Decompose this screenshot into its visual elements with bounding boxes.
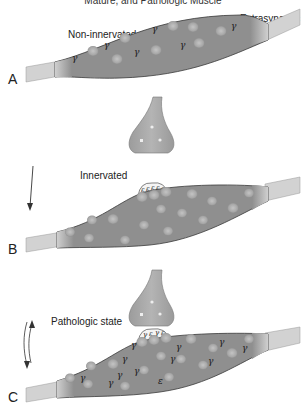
gamma-symbol: γ bbox=[231, 21, 237, 31]
gamma-symbol: γ bbox=[104, 40, 110, 50]
synaptic-nucleus bbox=[161, 187, 172, 197]
gamma-symbol: γ bbox=[72, 53, 78, 63]
nucleus bbox=[156, 205, 166, 214]
bidirectional-arrow-icon bbox=[24, 320, 35, 369]
panel-b-caption: Innervated bbox=[80, 170, 127, 181]
nucleus bbox=[156, 352, 166, 361]
gamma-symbol: γ bbox=[176, 342, 182, 352]
nucleus bbox=[198, 216, 208, 225]
tendon-right bbox=[265, 177, 300, 201]
nucleus bbox=[112, 54, 123, 64]
nucleus bbox=[65, 228, 75, 237]
gamma-symbol: γ bbox=[134, 366, 140, 376]
nucleus bbox=[208, 344, 218, 353]
nucleus bbox=[207, 197, 217, 206]
synaptic-nucleus bbox=[149, 190, 160, 200]
nucleus bbox=[151, 45, 162, 55]
nucleus bbox=[120, 33, 131, 43]
panel-letter-c: C bbox=[8, 389, 18, 405]
synaptic-nucleus bbox=[149, 335, 160, 345]
nucleus bbox=[176, 355, 186, 364]
nucleus bbox=[108, 359, 119, 369]
gamma-symbol: γ bbox=[80, 373, 86, 383]
nucleus bbox=[84, 234, 94, 243]
nucleus bbox=[244, 189, 254, 198]
gamma-symbol: γ bbox=[131, 340, 137, 350]
gamma-symbol: γ bbox=[117, 370, 123, 380]
nucleus bbox=[194, 38, 205, 48]
gamma-symbol: γ bbox=[180, 40, 186, 50]
panel-letter-a: A bbox=[8, 71, 18, 87]
nucleus bbox=[120, 382, 130, 391]
epsilon-symbol: ε bbox=[158, 376, 163, 386]
gamma-symbol: γ bbox=[219, 337, 225, 347]
synaptic-nucleus bbox=[137, 192, 148, 202]
gamma-symbol: γ bbox=[170, 354, 176, 364]
nucleus bbox=[163, 227, 173, 236]
figure-title: Mature, and Pathologic Muscle bbox=[84, 0, 222, 6]
gamma-symbol: γ bbox=[208, 356, 214, 366]
nucleus bbox=[177, 209, 187, 218]
nucleus bbox=[187, 189, 198, 199]
nucleus bbox=[227, 348, 238, 358]
nucleus bbox=[188, 22, 199, 32]
nucleus bbox=[198, 361, 208, 370]
synaptic-nucleus bbox=[137, 337, 148, 347]
synaptic-nucleus bbox=[161, 333, 172, 343]
nucleus bbox=[87, 216, 97, 225]
nerve-terminal bbox=[129, 270, 174, 326]
panel-c: Pathologic state γ ε γ ε bbox=[8, 270, 300, 405]
nucleus bbox=[120, 236, 130, 245]
panel-b: Innervated ε ε ε ε ε bbox=[8, 97, 300, 257]
nerve-terminal bbox=[129, 97, 174, 153]
down-arrow-icon bbox=[27, 166, 33, 211]
nucleus bbox=[139, 366, 149, 375]
gamma-symbol: γ bbox=[122, 354, 128, 364]
nucleus bbox=[164, 373, 174, 382]
tendon-right bbox=[265, 327, 300, 351]
nucleus bbox=[86, 362, 96, 371]
nucleus bbox=[186, 334, 197, 344]
nucleus bbox=[216, 26, 227, 36]
panel-letter-b: B bbox=[8, 241, 17, 257]
panel-c-caption: Pathologic state bbox=[51, 316, 123, 327]
nucleus bbox=[88, 46, 99, 56]
nucleus bbox=[168, 21, 179, 31]
nucleus bbox=[65, 374, 75, 383]
gamma-symbol: γ bbox=[242, 343, 248, 353]
nucleus bbox=[228, 203, 239, 213]
muscle-diagram: Mature, and Pathologic Muscle Non-innerv… bbox=[0, 0, 306, 405]
gamma-symbol: γ bbox=[134, 47, 140, 57]
gamma-symbol: γ bbox=[108, 378, 114, 388]
nucleus bbox=[108, 214, 119, 224]
nucleus bbox=[139, 221, 149, 230]
gamma-symbol: γ bbox=[152, 24, 158, 34]
panel-a: Non-innervated Extrasynaptic nuclei γ γ … bbox=[8, 9, 300, 87]
